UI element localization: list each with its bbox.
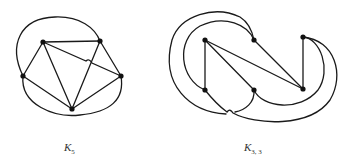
k5-node-e bbox=[69, 106, 74, 111]
k5-caption: K5 bbox=[64, 141, 75, 156]
k33-node-q3 bbox=[300, 86, 305, 91]
k5-graph bbox=[17, 17, 124, 115]
k5-edge-a-d bbox=[43, 42, 121, 76]
k33-edge-p1-q2 bbox=[205, 40, 254, 90]
graph-diagram bbox=[0, 0, 357, 164]
k5-edge-c-b-curve bbox=[17, 17, 100, 76]
k5-node-d bbox=[118, 73, 123, 78]
k33-node-p3 bbox=[300, 34, 305, 39]
k5-node-c bbox=[20, 73, 25, 78]
k5-edge-a-c bbox=[23, 42, 43, 76]
k33-caption: K3, 3 bbox=[244, 141, 262, 156]
k5-node-b bbox=[97, 38, 102, 43]
k33-node-p2 bbox=[251, 37, 256, 42]
k33-node-q1 bbox=[202, 87, 207, 92]
k5-caption-sub: 5 bbox=[71, 148, 75, 156]
k33-edge-q2-p3 bbox=[254, 37, 324, 105]
k33-graph bbox=[169, 12, 337, 122]
k33-edge-p2-q3 bbox=[254, 40, 303, 89]
k33-edge-p1-q3 bbox=[205, 40, 303, 89]
k33-node-p1 bbox=[202, 37, 207, 42]
k33-edge-q2-bump bbox=[235, 90, 254, 112]
k5-edge-a-b bbox=[43, 41, 100, 42]
k5-node-a bbox=[40, 39, 45, 44]
k33-node-q2 bbox=[251, 87, 256, 92]
k33-caption-sub: 3, 3 bbox=[251, 148, 262, 156]
